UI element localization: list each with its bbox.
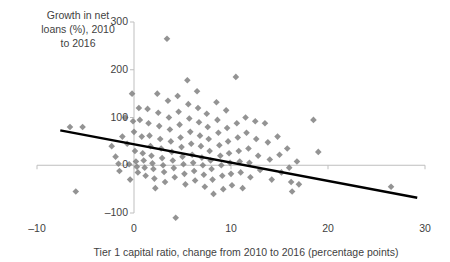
data-point [198, 143, 205, 150]
data-point [170, 157, 177, 164]
data-point [191, 168, 198, 175]
data-point [247, 174, 254, 181]
data-point [166, 114, 173, 121]
data-point [217, 152, 224, 159]
data-point [174, 93, 181, 100]
data-point [185, 101, 192, 108]
data-point [196, 119, 203, 126]
data-point [294, 158, 301, 165]
data-point [171, 174, 178, 181]
data-point [146, 132, 153, 139]
data-point [243, 129, 250, 136]
data-point [108, 143, 115, 150]
data-point [148, 152, 155, 159]
data-point [167, 126, 174, 133]
data-point [67, 124, 74, 131]
data-point [134, 163, 141, 170]
data-point [145, 120, 152, 127]
data-point [255, 152, 262, 159]
data-point [161, 169, 168, 176]
data-point [235, 148, 242, 155]
data-point [165, 97, 172, 104]
data-point [172, 214, 179, 221]
data-point [130, 118, 137, 125]
data-point [228, 171, 235, 178]
x-axis-tick-label: 10 [211, 222, 251, 234]
y-axis-tick-label: 0 [94, 158, 128, 170]
data-point [164, 35, 171, 42]
data-point [157, 136, 164, 143]
data-point [181, 171, 188, 178]
data-point [226, 150, 233, 157]
data-point [186, 115, 193, 122]
data-point [168, 138, 175, 145]
data-point [274, 133, 281, 140]
y-axis-tick-label: –100 [94, 206, 128, 218]
data-point [209, 176, 216, 183]
data-point [242, 114, 249, 121]
data-point [224, 125, 231, 132]
data-point [195, 105, 202, 112]
data-point [73, 188, 80, 195]
data-point [170, 165, 177, 172]
data-point [136, 105, 143, 112]
data-point [268, 176, 275, 183]
data-point [79, 124, 86, 131]
data-point [237, 169, 244, 176]
data-point [176, 121, 183, 128]
data-point [288, 179, 295, 186]
data-point [154, 90, 161, 97]
data-point [214, 117, 221, 124]
data-point [210, 191, 217, 198]
data-point [197, 132, 204, 139]
x-axis-tick-label: 30 [405, 222, 445, 234]
y-axis-tick-label: 300 [94, 15, 128, 27]
data-point [119, 133, 126, 140]
data-point [182, 181, 189, 188]
data-point [202, 183, 209, 190]
data-point [267, 156, 274, 163]
data-point [188, 140, 195, 147]
data-point [178, 144, 185, 151]
data-point [265, 139, 272, 146]
data-point [223, 107, 230, 114]
data-point [233, 74, 240, 81]
data-point [245, 145, 252, 152]
data-point [137, 117, 144, 124]
scatter-chart: Growth in net loans (%), 2010 to 2016 –1… [0, 0, 450, 262]
data-point [135, 169, 142, 176]
data-point [127, 176, 134, 183]
data-point [131, 129, 138, 136]
data-point [184, 77, 191, 84]
data-point [296, 181, 303, 188]
data-point [219, 172, 226, 179]
y-axis-tick-label: 200 [94, 63, 128, 75]
data-point [142, 172, 149, 179]
data-point [234, 120, 241, 127]
data-point [160, 162, 167, 169]
data-point [139, 150, 146, 157]
data-point [140, 157, 147, 164]
data-point [203, 110, 210, 117]
data-point [388, 183, 395, 190]
data-point [284, 145, 291, 152]
data-point [151, 175, 158, 182]
data-point [234, 134, 241, 141]
data-point [144, 106, 151, 113]
x-axis-tick-label: –10 [17, 222, 57, 234]
data-point [310, 117, 317, 124]
data-point [289, 188, 296, 195]
data-point [162, 179, 169, 186]
data-point [180, 161, 187, 168]
data-point [152, 185, 159, 192]
data-point [156, 123, 163, 130]
data-point [194, 88, 201, 95]
data-point [262, 120, 269, 127]
data-point [138, 133, 145, 140]
data-point [201, 172, 208, 179]
data-point [175, 108, 182, 115]
data-point [239, 185, 246, 192]
data-point [252, 118, 259, 125]
data-point [132, 148, 139, 155]
data-point [150, 166, 157, 173]
